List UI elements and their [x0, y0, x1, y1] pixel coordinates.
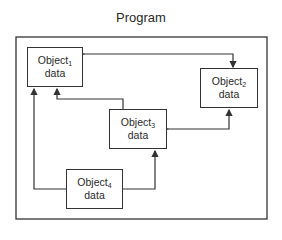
arrow-object3-object1: [57, 89, 123, 109]
object2-subscript: 2: [242, 81, 246, 88]
object3-name: Object: [121, 116, 151, 128]
object1-subscript: 1: [68, 60, 72, 67]
object4-name: Object: [77, 176, 107, 188]
object3-box: Object3 data: [109, 109, 167, 149]
object2-box: Object2 data: [200, 68, 258, 108]
object2-name: Object: [212, 75, 242, 87]
object3-data-label: data: [110, 129, 166, 142]
arrow-object4-object3: [122, 151, 155, 189]
arrow-object4-object1: [34, 89, 66, 189]
object3-subscript: 3: [151, 122, 155, 129]
object4-subscript: 4: [108, 182, 112, 189]
object2-data-label: data: [201, 88, 257, 101]
object1-name: Object: [38, 54, 68, 66]
object4-data-label: data: [67, 189, 122, 202]
object1-box: Object1 data: [27, 47, 83, 87]
object4-box: Object4 data: [66, 169, 123, 209]
arrow-object1-object2: [84, 54, 233, 67]
arrow-object3-object2: [168, 110, 229, 129]
object1-data-label: data: [28, 67, 82, 80]
